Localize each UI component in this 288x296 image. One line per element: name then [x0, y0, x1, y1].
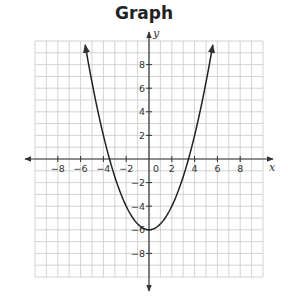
- y-tick-label: 4: [139, 106, 145, 117]
- y-axis-label: y: [152, 27, 160, 40]
- axes: xy: [25, 27, 276, 291]
- x-tick-label: −4: [96, 163, 110, 174]
- y-tick-label: −4: [131, 201, 145, 212]
- x-tick-label: 4: [192, 163, 198, 174]
- x-tick-label: 8: [237, 163, 243, 174]
- x-tick-label: −2: [119, 163, 133, 174]
- y-tick-label: 2: [139, 130, 145, 141]
- x-tick-label: 6: [214, 163, 220, 174]
- y-tick-label: 6: [139, 83, 145, 94]
- x-tick-label: 2: [169, 163, 175, 174]
- origin-label: 0: [153, 163, 159, 174]
- y-tick-label: −2: [131, 177, 145, 188]
- y-tick-label: −6: [131, 224, 145, 235]
- x-tick-label: −6: [74, 163, 88, 174]
- x-axis-label: x: [269, 161, 276, 174]
- coordinate-plane: xy −8−6−4−224688642−2−4−6−80: [0, 0, 288, 296]
- x-tick-label: −8: [51, 163, 65, 174]
- y-tick-label: 8: [139, 59, 145, 70]
- y-tick-label: −8: [131, 248, 145, 259]
